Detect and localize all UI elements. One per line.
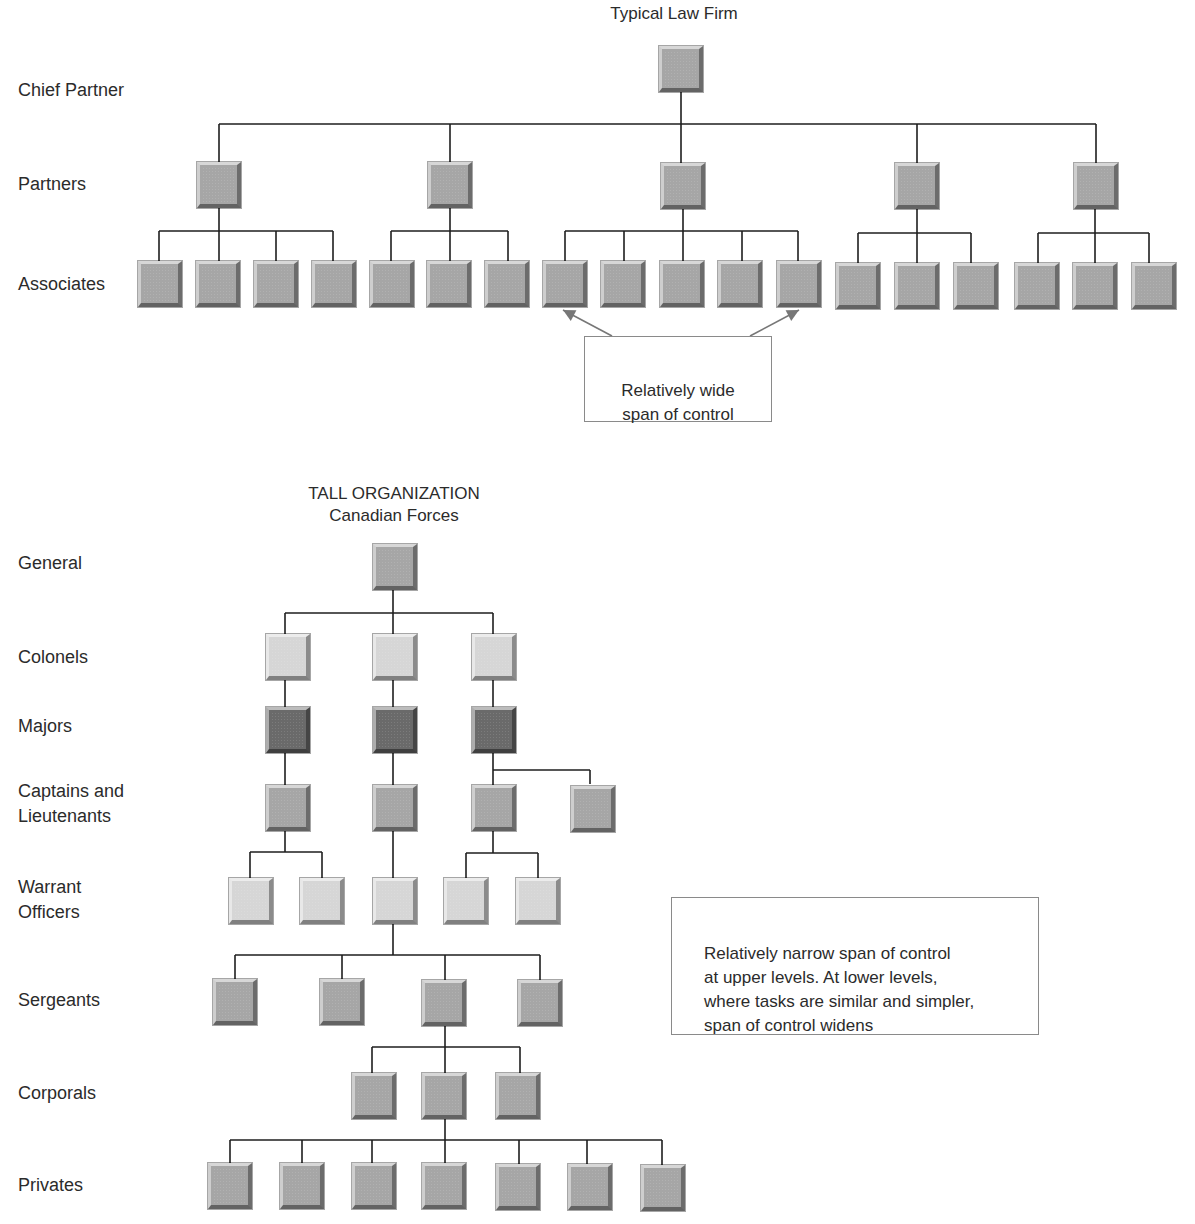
org-node-wo4 bbox=[444, 878, 488, 924]
org-node-sg4 bbox=[518, 980, 562, 1026]
level-label-chief-partner: Chief Partner bbox=[18, 78, 124, 103]
org-node-a16 bbox=[1015, 263, 1059, 309]
org-node-g bbox=[373, 544, 417, 590]
org-node-a13 bbox=[836, 263, 880, 309]
level-label-partners: Partners bbox=[18, 172, 86, 197]
org-node-p2 bbox=[428, 162, 472, 208]
org-node-sg2 bbox=[320, 979, 364, 1025]
org-node-col2 bbox=[373, 634, 417, 680]
tall-org-title-text: TALL ORGANIZATION bbox=[274, 483, 514, 505]
level-label-corporals: Corporals bbox=[18, 1081, 96, 1106]
flat-org-title-text: Typical Law Firm bbox=[610, 4, 738, 23]
org-node-pv2 bbox=[280, 1163, 324, 1209]
org-node-col1 bbox=[266, 634, 310, 680]
tall-org-title: TALL ORGANIZATION Canadian Forces bbox=[274, 483, 514, 527]
org-node-cp1 bbox=[352, 1073, 396, 1119]
org-node-maj2 bbox=[373, 707, 417, 753]
org-node-a10 bbox=[660, 261, 704, 307]
level-label-warrant-officers: Warrant Officers bbox=[18, 875, 81, 925]
level-label-associates: Associates bbox=[18, 272, 105, 297]
narrow-span-callout-text: Relatively narrow span of control at upp… bbox=[672, 922, 1038, 1038]
org-structure-diagram: Typical Law Firm Chief Partner Partners … bbox=[0, 0, 1195, 1224]
flat-org-title: Typical Law Firm bbox=[574, 3, 774, 25]
org-node-p3 bbox=[661, 163, 705, 209]
level-label-sergeants: Sergeants bbox=[18, 988, 100, 1013]
org-node-a1 bbox=[138, 261, 182, 307]
org-node-col3 bbox=[472, 634, 516, 680]
org-node-sg3 bbox=[422, 980, 466, 1026]
level-label-majors: Majors bbox=[18, 714, 72, 739]
org-node-a7 bbox=[485, 261, 529, 307]
org-node-wo2 bbox=[300, 878, 344, 924]
org-node-a8 bbox=[543, 261, 587, 307]
narrow-span-callout: Relatively narrow span of control at upp… bbox=[671, 897, 1039, 1035]
org-node-cap4 bbox=[571, 786, 615, 832]
callout-arrow-line bbox=[563, 310, 612, 336]
org-node-maj1 bbox=[266, 707, 310, 753]
wide-span-callout: Relatively wide span of control bbox=[584, 336, 772, 422]
org-node-a18 bbox=[1132, 263, 1176, 309]
org-node-sg1 bbox=[213, 979, 257, 1025]
org-node-maj3 bbox=[472, 707, 516, 753]
org-node-a9 bbox=[601, 261, 645, 307]
org-node-a3 bbox=[254, 261, 298, 307]
org-node-cp bbox=[659, 46, 703, 92]
org-node-pv7 bbox=[641, 1165, 685, 1211]
org-node-p4 bbox=[895, 163, 939, 209]
org-node-cap1 bbox=[266, 785, 310, 831]
level-label-privates: Privates bbox=[18, 1173, 83, 1198]
org-node-cp2 bbox=[422, 1073, 466, 1119]
level-label-general: General bbox=[18, 551, 82, 576]
level-label-captains-lieutenants: Captains and Lieutenants bbox=[18, 779, 124, 829]
org-node-a2 bbox=[196, 261, 240, 307]
org-node-cap3 bbox=[472, 785, 516, 831]
org-node-pv4 bbox=[422, 1163, 466, 1209]
org-node-a12 bbox=[777, 261, 821, 307]
org-node-wo1 bbox=[229, 878, 273, 924]
org-node-cp3 bbox=[496, 1073, 540, 1119]
org-node-a14 bbox=[895, 263, 939, 309]
callout-arrow-line bbox=[750, 310, 799, 336]
org-node-a5 bbox=[370, 261, 414, 307]
org-node-a6 bbox=[427, 261, 471, 307]
org-node-pv3 bbox=[352, 1163, 396, 1209]
org-node-wo5 bbox=[516, 878, 560, 924]
org-node-wo3 bbox=[373, 878, 417, 924]
org-node-pv6 bbox=[568, 1164, 612, 1210]
arrowhead-icon bbox=[786, 310, 799, 321]
arrowhead-icon bbox=[563, 310, 576, 321]
org-node-p5 bbox=[1074, 163, 1118, 209]
org-node-a17 bbox=[1073, 263, 1117, 309]
org-node-a11 bbox=[718, 261, 762, 307]
org-node-a15 bbox=[954, 263, 998, 309]
org-node-cap2 bbox=[373, 785, 417, 831]
org-node-pv5 bbox=[496, 1164, 540, 1210]
org-node-pv1 bbox=[208, 1163, 252, 1209]
org-node-p1 bbox=[197, 162, 241, 208]
level-label-colonels: Colonels bbox=[18, 645, 88, 670]
tall-org-subtitle: Canadian Forces bbox=[274, 505, 514, 527]
wide-span-callout-text: Relatively wide span of control bbox=[585, 361, 771, 427]
org-node-a4 bbox=[312, 261, 356, 307]
